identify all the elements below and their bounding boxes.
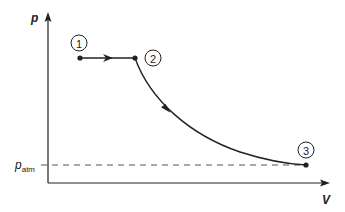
x-axis	[48, 180, 330, 187]
point-1-label: 1	[71, 35, 87, 51]
p-atm-label: patm	[14, 158, 35, 174]
point-3-dot	[303, 162, 308, 167]
p-atm-label-sub: atm	[22, 165, 36, 174]
point-3-number: 3	[303, 145, 309, 157]
point-3-label: 3	[298, 142, 314, 158]
point-1-dot	[77, 55, 82, 60]
point-1-number: 1	[76, 38, 82, 50]
point-2-label: 2	[145, 50, 161, 66]
process-2-3-curve	[135, 58, 306, 165]
y-axis	[45, 12, 52, 183]
pv-diagram: p V patm 1 2 3	[0, 0, 345, 212]
process-2-3-arrow-icon	[160, 103, 171, 112]
x-axis-label: V	[322, 193, 331, 207]
y-axis-label: p	[30, 11, 38, 25]
point-2-dot	[132, 55, 137, 60]
point-2-number: 2	[150, 53, 156, 65]
